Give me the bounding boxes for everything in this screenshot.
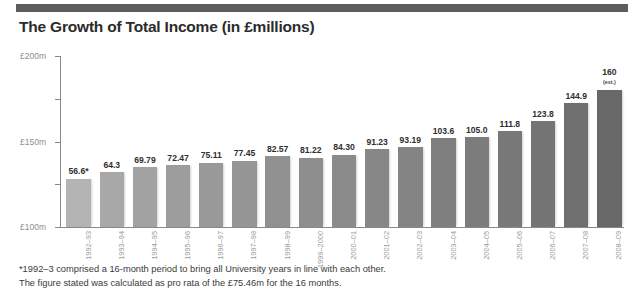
bar-value-label: 64.3: [103, 160, 120, 170]
bar-value-label: 103.6: [433, 126, 455, 136]
x-axis-category-label: 1993–94: [116, 231, 125, 260]
bar[interactable]: [299, 158, 323, 227]
bar[interactable]: [531, 121, 555, 227]
x-axis-category-label: 1996–97: [216, 231, 225, 260]
y-axis-tick-label: £100m: [20, 222, 46, 232]
bar[interactable]: [265, 156, 289, 227]
x-axis-category-label: 2000–01: [348, 231, 357, 260]
bar-value-label: 81.22: [300, 145, 322, 155]
bar-slot[interactable]: 72.471995–96: [166, 56, 190, 227]
bar-slot[interactable]: 105.02004–05: [465, 56, 489, 227]
bar[interactable]: [365, 149, 389, 227]
x-axis-line: [60, 227, 624, 228]
y-axis-tick-mark: 0: [55, 227, 61, 228]
x-axis-category-label: 2005–06: [514, 231, 523, 260]
bar-slot[interactable]: 111.82005–06: [498, 56, 522, 227]
bar-value-label: 56.6*: [69, 166, 89, 176]
bar[interactable]: [564, 103, 588, 227]
bar-value-label: 105.0: [466, 125, 488, 135]
bar[interactable]: [332, 155, 356, 227]
x-axis-category-label: 2001–02: [382, 231, 391, 260]
bar-value-label: 84.30: [333, 142, 355, 152]
bar-value-label: 69.79: [134, 155, 156, 165]
x-axis-category-label: 1995–96: [183, 231, 192, 260]
bar-slot[interactable]: 103.62003–04: [431, 56, 455, 227]
footnote-line-1: *1992–3 comprised a 16-month period to b…: [19, 262, 619, 276]
bar-slot[interactable]: 84.302000–01: [332, 56, 356, 227]
bar-slot[interactable]: 144.92007–08: [564, 56, 588, 227]
y-axis-tick-mark: £50m: [55, 184, 61, 185]
x-axis-category-label: 2008–09: [614, 231, 623, 260]
bar-slot[interactable]: 64.31993–94: [100, 56, 124, 227]
bar-value-label: 75.11: [201, 150, 222, 160]
bar[interactable]: [431, 138, 455, 227]
bar-slot[interactable]: 82.571998–99: [265, 56, 289, 227]
bar-slot[interactable]: 160(est.)2008–09: [597, 56, 621, 227]
bar-series: 56.6*1992–9364.31993–9469.791994–9572.47…: [62, 56, 624, 227]
y-axis-tick-mark: £100m: [55, 142, 61, 143]
bar[interactable]: [66, 179, 90, 227]
bar-value-label: 82.57: [267, 144, 289, 154]
bar-value-label: 91.23: [366, 137, 388, 147]
bar[interactable]: [465, 137, 489, 227]
bar-slot[interactable]: 123.82006–07: [531, 56, 555, 227]
top-decorative-rule: [16, 4, 628, 12]
x-axis-category-label: 2002–03: [415, 231, 424, 260]
x-axis-category-label: 1992–93: [83, 231, 92, 260]
bar[interactable]: [100, 172, 124, 227]
bar-chart-plot-area: £200m£150m£100m£50m0 56.6*1992–9364.3199…: [60, 56, 624, 228]
bar-value-label: 144.9: [565, 91, 587, 101]
bar[interactable]: [498, 131, 522, 227]
footnote-line-2: The figure stated was calculated as pro …: [19, 276, 619, 290]
bar-value-label: 123.8: [532, 109, 554, 119]
bar[interactable]: [199, 163, 223, 227]
bar-value-label: 160: [602, 67, 616, 77]
bar-slot[interactable]: 91.232001–02: [365, 56, 389, 227]
y-axis-tick-label: £150m: [20, 137, 46, 147]
bar-value-label: 77.45: [234, 148, 256, 158]
bar-value-label: 111.8: [500, 119, 521, 129]
footnotes: *1992–3 comprised a 16-month period to b…: [19, 262, 619, 290]
bar[interactable]: [166, 165, 190, 227]
bar[interactable]: [398, 147, 422, 227]
x-axis-category-label: 1994–95: [149, 231, 158, 260]
bar-slot[interactable]: 93.192002–03: [398, 56, 422, 227]
bar-slot[interactable]: 56.6*1992–93: [66, 56, 90, 227]
bar[interactable]: [232, 161, 256, 227]
bar-slot[interactable]: 69.791994–95: [133, 56, 157, 227]
bar-value-note: (est.): [603, 79, 616, 85]
bar[interactable]: [597, 90, 621, 227]
y-axis-tick-mark: £150m: [55, 99, 61, 100]
x-axis-category-label: 1997–98: [249, 231, 258, 260]
bar-slot[interactable]: 77.451997–98: [232, 56, 256, 227]
bar[interactable]: [133, 167, 157, 227]
x-axis-category-label: 2003–04: [448, 231, 457, 260]
y-axis-tick-label: £200m: [20, 51, 46, 61]
x-axis-category-label: 2004–05: [481, 231, 490, 260]
bar-value-label: 72.47: [167, 153, 189, 163]
x-axis-category-label: 2007–08: [581, 231, 590, 260]
bar-value-label: 93.19: [400, 135, 422, 145]
x-axis-category-label: 1998–99: [282, 231, 291, 260]
y-axis-tick-mark: £200m: [55, 56, 61, 57]
x-axis-category-label: 2006–07: [548, 231, 557, 260]
bar-slot[interactable]: 81.221999–2000: [299, 56, 323, 227]
page-title: The Growth of Total Income (in £millions…: [19, 18, 315, 36]
bar-slot[interactable]: 75.111996–97: [199, 56, 223, 227]
